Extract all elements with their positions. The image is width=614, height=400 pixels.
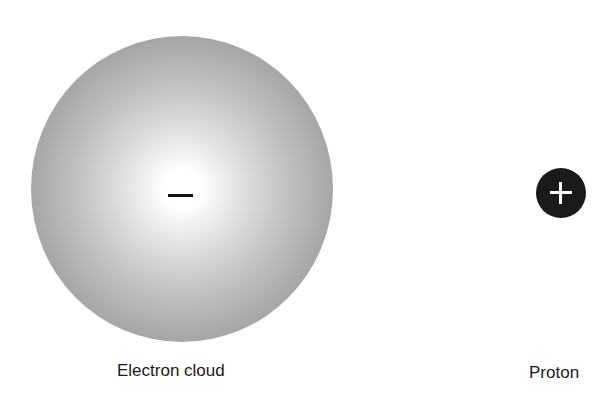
plus-charge-icon-vertical [559, 182, 562, 204]
proton-label: Proton [529, 363, 579, 383]
electron-cloud [31, 36, 333, 342]
proton-circle [536, 168, 586, 218]
electron-cloud-label: Electron cloud [117, 361, 225, 381]
minus-charge-icon [168, 194, 193, 197]
